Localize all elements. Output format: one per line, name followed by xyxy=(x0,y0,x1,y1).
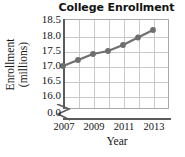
x-axis-spine xyxy=(63,118,171,120)
chart-title: College Enrollment xyxy=(48,1,185,14)
series-markers-enrollment xyxy=(60,27,156,69)
y-tick-label-16.5: 16.5 xyxy=(31,74,61,86)
y-axis-label-line2: (millions) xyxy=(16,13,29,117)
data-point-2013 xyxy=(150,27,156,33)
data-point-2009 xyxy=(90,51,96,57)
y-tick-label-16.0: 16.0 xyxy=(31,89,61,101)
y-axis-label: Enrollment (millions) xyxy=(4,13,29,117)
data-point-2011 xyxy=(120,42,126,48)
chart-screenshot: College Enrollment 18.5 18.0 17.5 17.0 1… xyxy=(0,0,185,157)
y-tick-label-17.5: 17.5 xyxy=(31,44,61,56)
y-tick-label-0.0: 0.0 xyxy=(31,106,61,118)
y-tick-label-18.0: 18.0 xyxy=(31,29,61,41)
x-tick-label-2007: 2007 xyxy=(48,121,80,132)
y-tick-label-18.5: 18.5 xyxy=(31,13,61,25)
x-tick-label-2011: 2011 xyxy=(108,121,140,132)
data-point-2010 xyxy=(105,48,111,54)
y-axis-label-line1: Enrollment xyxy=(4,39,16,91)
x-axis-label: Year xyxy=(63,135,171,147)
x-tick-label-2013: 2013 xyxy=(138,121,170,132)
y-tick-label-17.0: 17.0 xyxy=(31,59,61,71)
data-point-2008 xyxy=(75,57,81,63)
data-point-2012 xyxy=(135,35,141,41)
data-series-layer xyxy=(63,19,169,109)
x-tick-label-2009: 2009 xyxy=(78,121,110,132)
y-axis-tick-labels: 18.5 18.0 17.5 17.0 16.5 16.0 0.0 xyxy=(30,0,61,157)
